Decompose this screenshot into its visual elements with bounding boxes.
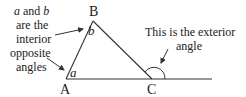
left-note-line2: are the xyxy=(16,18,48,32)
left-note-line4: opposite xyxy=(10,46,51,60)
left-note-line1: a and b xyxy=(14,4,49,18)
left-note-line5: angles xyxy=(16,60,47,74)
vertex-label-a: A xyxy=(60,82,71,97)
arrow-to-b xyxy=(55,29,83,35)
left-note-line3: interior xyxy=(16,32,51,46)
exterior-angle-arc xyxy=(145,67,165,79)
arrow-to-exterior xyxy=(161,49,168,63)
side-bc xyxy=(93,21,152,79)
vertex-label-c: C xyxy=(147,82,156,97)
right-note-line2: angle xyxy=(176,39,202,53)
angle-label-a: a xyxy=(70,65,77,80)
angle-label-b: b xyxy=(88,23,95,38)
triangle-diagram: B A C b a a and b are the interior oppos… xyxy=(0,0,246,97)
vertex-label-b: B xyxy=(89,4,98,19)
right-note-line1: This is the exterior xyxy=(145,25,235,39)
